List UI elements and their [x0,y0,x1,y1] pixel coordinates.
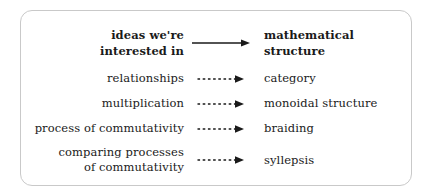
idea-label: relationships [20,71,190,86]
idea-line1: relationships [107,71,184,85]
structure-label: monoidal structure [252,96,412,111]
structure-line1: category [264,71,316,85]
idea-line1: process of commutativity [35,121,184,135]
table-header-row: ideas we're interested in mathematical s… [20,20,412,66]
idea-label: process of commutativity [20,121,190,136]
structure-line1: syllepsis [264,153,314,167]
structure-line1: braiding [264,121,314,135]
row-arrow-cell [190,74,252,84]
idea-label: comparing processes of commutativity [20,145,190,175]
structure-line1: monoidal structure [264,96,377,110]
header-structure-line1: mathematical [264,28,354,42]
idea-line1: comparing processes [58,145,184,159]
row-arrow-cell [190,124,252,134]
header-arrow-cell [190,38,252,48]
idea-line1: multiplication [102,96,184,110]
header-structure-column: mathematical structure [252,27,412,59]
dashed-arrow-icon [197,124,245,134]
table-row: relationships category [20,66,412,91]
header-ideas-line2: interested in [20,43,184,59]
mapping-table: ideas we're interested in mathematical s… [20,10,412,186]
header-ideas-line1: ideas we're [111,28,184,42]
header-structure-line2: structure [264,43,412,59]
table-row: process of commutativity braiding [20,116,412,141]
structure-label: syllepsis [252,153,412,168]
idea-label: multiplication [20,96,190,111]
table-row: multiplication monoidal structure [20,91,412,116]
idea-line2: of commutativity [20,160,184,175]
dashed-arrow-icon [197,99,245,109]
row-arrow-cell [190,155,252,165]
solid-arrow-icon [191,38,251,48]
dashed-arrow-icon [197,74,245,84]
structure-label: category [252,71,412,86]
row-arrow-cell [190,99,252,109]
dashed-arrow-icon [197,155,245,165]
header-ideas-column: ideas we're interested in [20,27,190,59]
table-row: comparing processes of commutativity syl… [20,141,412,179]
structure-label: braiding [252,121,412,136]
